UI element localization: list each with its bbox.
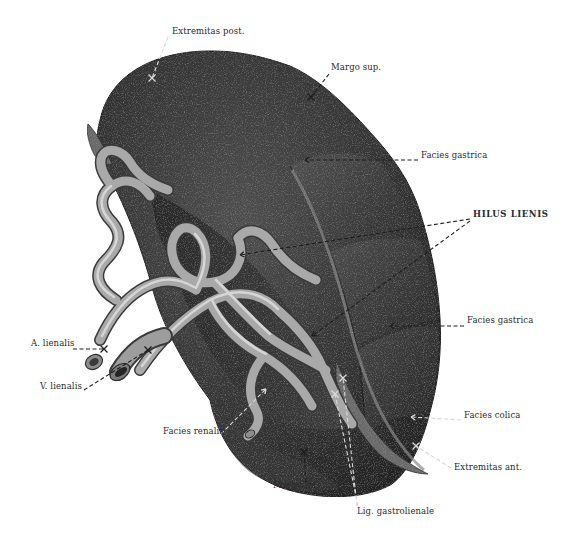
leader-line-extremitas-ant <box>416 446 451 468</box>
label-a-lienalis: A. lienalis <box>31 339 74 348</box>
label-v-lienalis: V. lienalis <box>40 382 82 391</box>
label-hilus-lienis: HILUS LIENIS <box>473 210 549 219</box>
a-lienalis-cut-end <box>83 351 106 372</box>
label-margo-sup: Margo sup. <box>331 63 381 72</box>
label-lig-gastrolienale: Lig. gastrolienale <box>357 507 434 516</box>
spleen-body <box>87 51 440 497</box>
label-facies-renalis: Facies renalis <box>163 427 224 436</box>
v-lienalis-cut-end <box>107 336 164 384</box>
label-extremitas-post: Extremitas post. <box>172 27 244 36</box>
label-facies-gastrica-upper: Facies gastrica <box>421 151 487 160</box>
label-facies-gastrica-lower: Facies gastrica <box>467 316 533 325</box>
label-margo-inf: Margo inf. <box>273 481 319 490</box>
label-extremitas-ant: Extremitas ant. <box>454 463 522 472</box>
label-facies-colica: Facies colica <box>464 411 520 420</box>
